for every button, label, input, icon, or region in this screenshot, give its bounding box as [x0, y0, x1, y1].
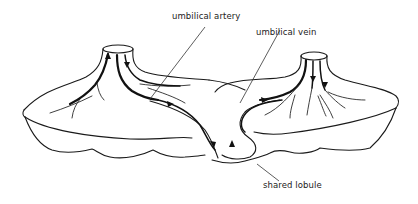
- right-cord-stump: [301, 52, 327, 60]
- left-cord-flare-right: [133, 49, 209, 80]
- left-branch-3: [97, 83, 104, 100]
- left-vessel-left: [70, 54, 108, 104]
- right-umbilical-vein: [241, 100, 282, 132]
- right-branch-2: [290, 95, 295, 118]
- arrow-down-icon: [310, 76, 316, 82]
- arrow-up-icon: [229, 140, 235, 147]
- artery-to-shared-lobule: [158, 100, 215, 150]
- right-disc-inner-rim: [254, 108, 396, 134]
- label-umbilical-vein: umbilical vein: [256, 27, 317, 37]
- arrow-up-icon: [105, 52, 111, 59]
- right-disc-bottom: [212, 108, 396, 163]
- label-umbilical-artery: umbilical artery: [172, 11, 240, 21]
- right-vessel-left: [260, 60, 306, 100]
- label-shared-lobule: shared lobule: [263, 180, 322, 190]
- lobule-leader-line: [257, 164, 279, 181]
- right-vessel-center: [312, 61, 313, 88]
- left-cord-flare-left: [24, 49, 103, 110]
- right-branch-4: [325, 90, 345, 108]
- right-branch-3: [307, 88, 312, 115]
- right-placenta: [212, 52, 399, 163]
- left-disc-edge: [23, 110, 25, 117]
- placenta-diagram: [0, 0, 418, 204]
- left-disc-inner-rim: [25, 117, 192, 139]
- arrow-down-icon: [124, 62, 130, 68]
- left-cord-stump: [103, 45, 133, 53]
- left-branch-5: [148, 88, 185, 103]
- artery-leader-line: [150, 27, 205, 99]
- diagram-canvas: umbilical artery umbilical vein shared l…: [0, 0, 418, 204]
- right-branch-7: [318, 96, 326, 116]
- arrow-right-icon: [167, 101, 174, 107]
- right-cord-flare-left: [215, 56, 301, 92]
- left-disc-right-edge: [150, 101, 218, 158]
- left-placenta: [23, 45, 245, 158]
- vein-leader-line: [240, 30, 280, 103]
